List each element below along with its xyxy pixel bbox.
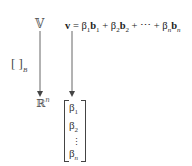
space-R-superscript: n xyxy=(45,96,50,104)
eq-term-n: βnbn xyxy=(162,20,180,31)
eq-ellipsis: ⋯ xyxy=(140,20,151,31)
vector-entry-1: β1 xyxy=(69,101,81,119)
vector-entry-n: βn xyxy=(69,147,81,165)
eq-equals: = xyxy=(73,20,79,31)
basis-expansion-equation: v = β1b1 + β2b2 + ⋯ + βnbn xyxy=(65,19,181,34)
right-bracket xyxy=(81,100,86,162)
eq-plus: + xyxy=(154,20,160,31)
right-arrow xyxy=(69,31,75,97)
eq-plus: + xyxy=(102,20,108,31)
eq-plus: + xyxy=(132,20,138,31)
vector-entry-2: β2 xyxy=(69,119,81,137)
vector-space-V: 𝕍 xyxy=(35,17,44,31)
vector-space-Rn: ℝn xyxy=(36,96,50,110)
vector-entries: β1 β2 ⋮ βn xyxy=(69,101,81,166)
left-arrow xyxy=(37,31,43,97)
coordinate-column-vector: β1 β2 ⋮ βn xyxy=(64,100,86,162)
coord-map-subscript: B xyxy=(23,66,27,74)
eq-lhs-v: v xyxy=(65,20,70,31)
eq-term-2: β2b2 xyxy=(111,20,129,31)
eq-term-1: β1b1 xyxy=(81,20,99,31)
space-R-symbol: ℝ xyxy=(36,97,45,110)
coordinate-map-label: [ ]B xyxy=(11,56,27,74)
coord-map-brackets: [ ] xyxy=(11,56,23,71)
space-V-symbol: 𝕍 xyxy=(35,17,44,31)
vector-vdots: ⋮ xyxy=(69,137,81,147)
